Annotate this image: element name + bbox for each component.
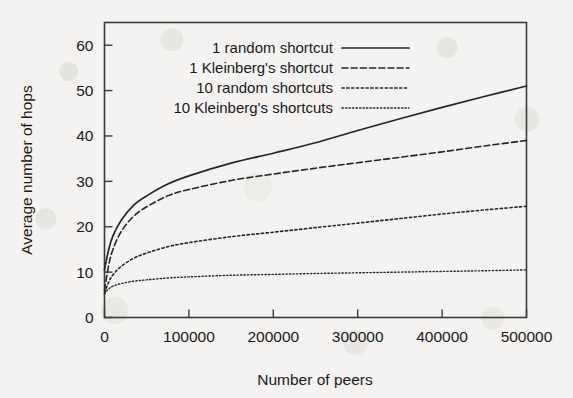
y-axis-tick-labels: 0102030405060 (76, 37, 94, 326)
legend-label-0: 1 random shortcut (212, 39, 334, 56)
x-tick-label-500000: 500000 (501, 328, 553, 345)
y-axis-ticks (105, 45, 113, 317)
y-tick-label-60: 60 (76, 37, 94, 54)
x-axis-title: Number of peers (257, 371, 373, 388)
y-tick-label-20: 20 (76, 218, 94, 235)
x-tick-label-300000: 300000 (332, 328, 384, 345)
y-tick-label-50: 50 (76, 82, 94, 99)
x-axis-tick-labels: 0100000200000300000400000500000 (100, 328, 553, 345)
legend-label-3: 10 Kleinberg's shortcuts (173, 99, 333, 116)
x-axis-ticks (105, 310, 527, 318)
chart-page: 0102030405060 01000002000003000004000005… (0, 0, 573, 398)
legend-label-2: 10 random shortcuts (196, 79, 333, 96)
y-tick-label-30: 30 (76, 173, 94, 190)
series-line-1 (105, 141, 527, 291)
y-tick-label-40: 40 (76, 127, 94, 144)
x-tick-label-200000: 200000 (247, 328, 299, 345)
series-line-2 (105, 206, 527, 293)
y-tick-label-10: 10 (76, 264, 94, 281)
legend-label-1: 1 Kleinberg's shortcut (189, 59, 334, 76)
y-axis-title: Average number of hops (18, 85, 35, 255)
series-group (105, 86, 527, 294)
chart-legend: 1 random shortcut1 Kleinberg's shortcut1… (173, 39, 409, 116)
x-tick-label-0: 0 (100, 328, 109, 345)
y-tick-label-0: 0 (85, 309, 94, 326)
x-tick-label-100000: 100000 (163, 328, 215, 345)
x-tick-label-400000: 400000 (416, 328, 468, 345)
series-line-3 (105, 270, 527, 294)
line-chart-figure: 0102030405060 01000002000003000004000005… (0, 0, 573, 398)
